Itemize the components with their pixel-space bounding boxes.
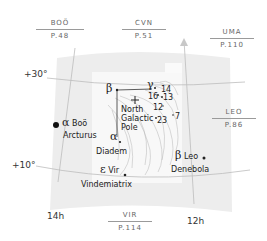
star-gamma-com — [154, 87, 156, 89]
star-label-gamma: γ — [147, 80, 154, 89]
star-7 — [172, 114, 174, 116]
nav-label-abbr: LEO — [212, 108, 256, 119]
dec-label-10: +10° — [12, 160, 36, 170]
nav-label-abbr: BOÖ — [36, 19, 84, 30]
star-denebola — [203, 157, 206, 160]
ra-label-14h: 14h — [47, 211, 64, 221]
star-label-arcturus: α Boö — [62, 118, 87, 128]
nav-label-cvn[interactable]: CVN P.51 — [122, 19, 166, 40]
star-label-16: 16 — [148, 92, 158, 101]
nav-label-page: P.51 — [122, 30, 166, 40]
star-label-beta: β — [106, 84, 112, 93]
ngp-label-line1: North — [121, 105, 143, 114]
star-label-13: 13 — [163, 93, 173, 102]
star-label-7: 7 — [175, 112, 180, 121]
star-alpha-com — [119, 141, 121, 143]
star-name-denebola: Denebola — [171, 165, 209, 174]
vindemiatrix-greek: ε — [100, 163, 106, 176]
star-label-denebola: β Leo — [175, 151, 198, 161]
nav-label-page: P.86 — [212, 119, 256, 129]
nav-label-abbr: VIR — [108, 211, 152, 222]
star-name-arcturus: Arcturus — [63, 131, 97, 140]
star-vindemiatrix — [124, 174, 127, 177]
star-name-vindemiatrix: Vindemiatrix — [81, 180, 132, 189]
arcturus-constellation: Boö — [72, 119, 87, 128]
nav-label-boo[interactable]: BOÖ P.48 — [36, 19, 84, 40]
nav-label-leo[interactable]: LEO P.86 — [212, 108, 256, 129]
nav-label-page: P.114 — [108, 222, 152, 232]
ngp-label-line2: Galactic — [121, 114, 153, 123]
nav-label-page: P.48 — [36, 30, 84, 40]
nav-label-abbr: UMA — [210, 28, 254, 39]
star-name-diadem: Diadem — [96, 147, 127, 156]
ra-label-12h: 12h — [187, 216, 204, 226]
dec-label-30: +30° — [24, 69, 48, 79]
nav-label-page: P.110 — [210, 39, 254, 49]
nav-label-abbr: CVN — [122, 19, 166, 30]
star-label-alpha: α — [110, 132, 117, 141]
star-beta-com — [116, 89, 118, 91]
nav-label-uma[interactable]: UMA P.110 — [210, 28, 254, 49]
north-arrow-icon — [180, 38, 188, 46]
arcturus-greek: α — [62, 116, 69, 129]
denebola-constellation: Leo — [184, 152, 198, 161]
star-label-12: 12 — [153, 103, 163, 112]
star-arcturus — [53, 122, 59, 128]
vindemiatrix-constellation: Vir — [108, 166, 119, 175]
denebola-greek: β — [175, 149, 181, 162]
nav-label-vir[interactable]: VIR P.114 — [108, 211, 152, 232]
ngp-label-line3: Pole — [121, 123, 138, 132]
star-label-23: 23 — [157, 116, 167, 125]
star-label-vindemiatrix: ε Vir — [100, 165, 119, 175]
